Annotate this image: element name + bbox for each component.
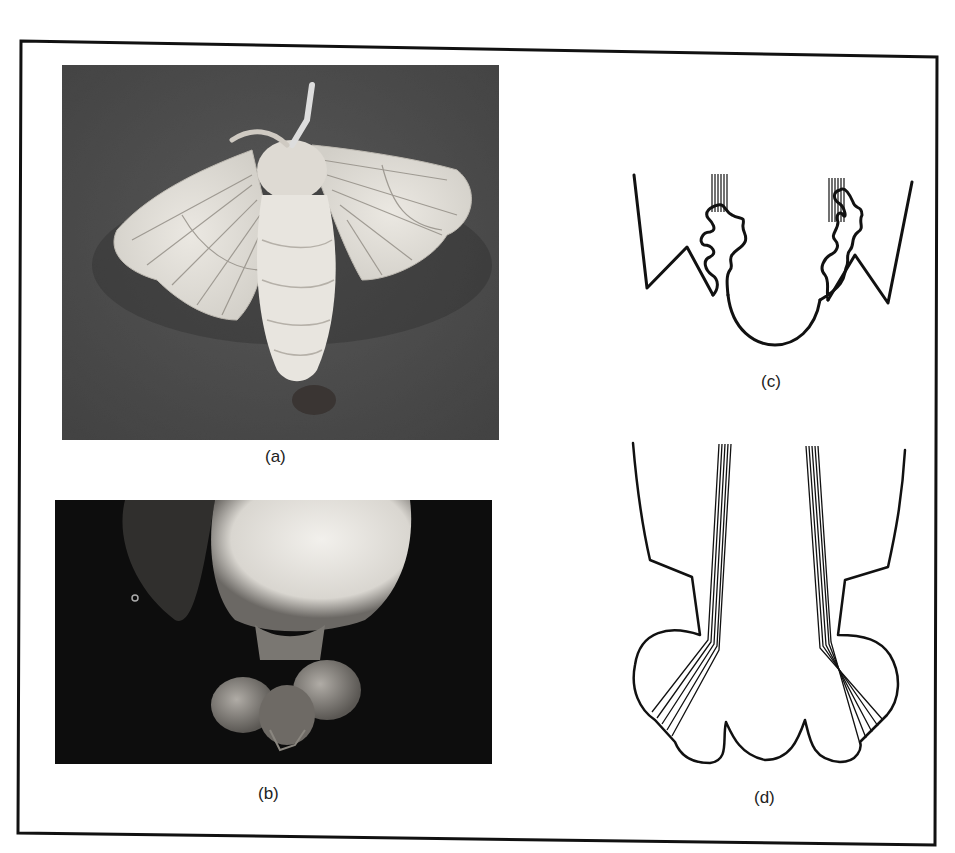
panel-a-photo: [62, 65, 499, 440]
panel-d-label: (d): [754, 788, 775, 808]
panel-d-diagram: [600, 430, 930, 820]
figure-page: (a): [0, 0, 955, 853]
panel-a-label: (a): [265, 447, 286, 467]
panel-c-label: (c): [761, 372, 781, 392]
moth-image: [62, 65, 499, 440]
abdomen-image: [55, 500, 492, 764]
panel-c-diagram: [600, 160, 930, 400]
panel-b-photo: [55, 500, 492, 764]
panel-b-label: (b): [258, 784, 279, 804]
